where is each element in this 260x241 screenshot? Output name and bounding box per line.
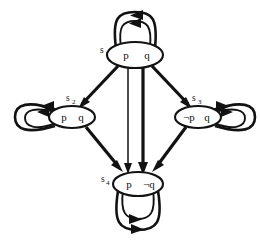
transition-s2-s4[interactable] xyxy=(86,127,123,172)
node-s1-label-s: s xyxy=(100,45,104,55)
node-s3-prop-left: ¬p xyxy=(183,111,195,123)
node-s1-prop-left: p xyxy=(123,49,129,61)
node-s4-prop-right: ¬q xyxy=(143,178,155,190)
diagram-canvas: p q s 1 p q s 2 ¬p q s 3 p xyxy=(0,0,260,241)
node-s3-label-sub: 3 xyxy=(198,98,202,106)
state-transition-diagram: p q s 1 p q s 2 ¬p q s 3 p xyxy=(0,0,260,241)
node-s3[interactable]: ¬p q xyxy=(175,106,221,128)
node-s4-state-label: s 4 xyxy=(101,174,110,187)
transition-s1-s4-left[interactable] xyxy=(124,68,132,174)
node-s2-state-label: s 2 xyxy=(66,93,76,106)
node-s3-state-label: s 3 xyxy=(192,93,202,106)
node-s4[interactable]: p ¬q xyxy=(113,172,163,196)
node-s4-label-sub: 4 xyxy=(106,179,110,187)
node-s2-label-sub: 2 xyxy=(72,98,76,106)
transition-s3-s4[interactable] xyxy=(152,127,186,172)
node-s1[interactable]: p q xyxy=(107,42,163,68)
node-s2-label-s: s xyxy=(66,93,70,103)
transition-s1-s4-right[interactable] xyxy=(138,68,148,175)
node-s4-prop-left: p xyxy=(126,178,132,190)
transition-s1-s3[interactable] xyxy=(152,66,192,109)
transition-s1-s2[interactable] xyxy=(78,66,118,109)
node-s1-prop-right: q xyxy=(144,49,150,61)
node-s1-label-sub: 1 xyxy=(105,50,109,58)
node-s2[interactable]: p q xyxy=(49,106,95,128)
node-s3-label-s: s xyxy=(192,93,196,103)
node-s2-prop-right: q xyxy=(78,111,84,123)
node-s2-prop-left: p xyxy=(61,111,67,123)
node-s1-state-label: s 1 xyxy=(100,45,109,58)
node-s4-label-s: s xyxy=(101,174,105,184)
node-s3-prop-right: q xyxy=(204,111,210,123)
